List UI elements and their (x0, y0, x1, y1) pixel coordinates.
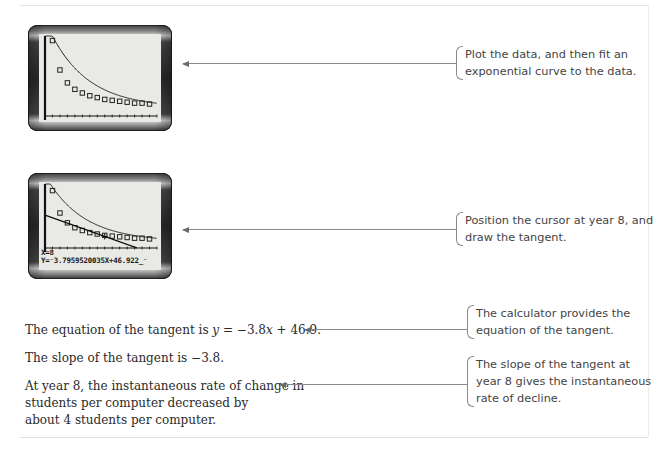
note-text: Plot the data, and then fit an exponenti… (465, 48, 636, 78)
data-point (58, 68, 62, 72)
note-calculator-provides: The calculator provides the equation of … (467, 305, 656, 339)
left-brace-icon (467, 356, 474, 407)
statement-text: + 46.9. (273, 323, 321, 337)
data-point (117, 235, 121, 239)
data-point (58, 211, 62, 215)
left-arrow-icon (280, 384, 467, 385)
left-arrow-icon (183, 63, 456, 64)
note-plot-data: Plot the data, and then fit an exponenti… (456, 46, 655, 80)
data-point (73, 87, 77, 91)
tangent-equation-statement: The equation of the tangent is y = −3.8x… (25, 322, 321, 339)
data-point (125, 235, 129, 239)
statement-line: At year 8, the instantaneous rate of cha… (25, 378, 304, 395)
data-point (132, 236, 136, 240)
bottom-rule (20, 437, 648, 438)
data-point (88, 94, 92, 98)
data-point (110, 98, 114, 102)
rate-of-change-statement: At year 8, the instantaneous rate of cha… (25, 378, 304, 429)
data-point (80, 91, 84, 95)
scatter-plot (39, 34, 161, 122)
statement-text: = −3.8 (219, 323, 266, 337)
note-text: The calculator provides the equation of … (476, 307, 630, 337)
note-text: The slope of the tangent at year 8 gives… (476, 358, 651, 405)
statement-text: The equation of the tangent is (25, 323, 212, 337)
slope-statement: The slope of the tangent is −3.8. (25, 350, 224, 367)
left-arrow-icon (305, 329, 467, 330)
variable-x: x (266, 323, 273, 337)
data-point (103, 97, 107, 101)
statement-line: about 4 students per computer. (25, 412, 304, 429)
left-brace-icon (456, 46, 463, 80)
calculator-screen-tangent: X=8 Y=⁻3.7959520035X+46.922_⁻ (28, 173, 172, 279)
statement-line: students per computer decreased by (25, 395, 304, 412)
data-point (65, 81, 69, 85)
note-position-cursor: Position the cursor at year 8, and draw … (456, 212, 655, 246)
top-rule (20, 5, 648, 6)
data-point (117, 99, 121, 103)
calculator-screen-scatter (28, 25, 172, 131)
tangent-line (45, 215, 137, 248)
calculator-display: X=8 Y=⁻3.7959520035X+46.922_⁻ (39, 182, 161, 270)
data-point (95, 95, 99, 99)
left-brace-icon (467, 305, 474, 339)
note-slope-gives-rate: The slope of the tangent at year 8 gives… (467, 356, 656, 407)
tangent-equation-readout: Y=⁻3.7959520035X+46.922_⁻ (41, 257, 147, 265)
left-brace-icon (456, 212, 463, 246)
left-arrow-icon (183, 229, 456, 230)
note-text: Position the cursor at year 8, and draw … (465, 214, 653, 244)
calculator-display (39, 34, 161, 122)
data-point (132, 101, 136, 105)
data-point (125, 100, 129, 104)
data-point (110, 234, 114, 238)
